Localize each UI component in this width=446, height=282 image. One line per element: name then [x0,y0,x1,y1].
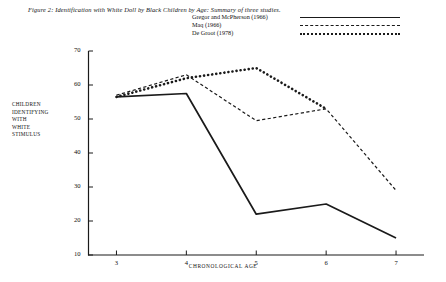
y-axis-title-line: IDENTIFYING [12,109,70,117]
figure-container: Figure 2: Identification with White Doll… [0,0,446,282]
series-line [116,75,396,191]
x-axis-title: CHRONOLOGICAL AGE [0,263,446,269]
x-tick-marks [116,251,396,256]
y-axis-title: CHILDRENIDENTIFYINGWITHWHITESTIMULUS [12,101,70,139]
y-axis-title-line: STIMULUS [12,131,70,139]
series-lines [116,68,396,238]
y-tick-label: 20 [57,216,81,223]
series-line [116,94,396,239]
y-tick-label: 10 [57,250,81,257]
y-axis-title-line: CHILDREN [12,101,70,109]
y-tick-label: 40 [57,148,81,155]
plot-area: 70605040302010 34567 CHILDRENIDENTIFYING… [0,0,446,282]
y-axis-title-line: WITH [12,116,70,124]
y-tick-marks [89,51,94,255]
y-axis-title-line: WHITE [12,124,70,132]
axis-lines [88,51,424,256]
y-tick-label: 70 [57,46,81,53]
y-tick-label: 60 [57,80,81,87]
series-line [116,68,326,109]
chart-svg [0,0,446,282]
y-tick-label: 30 [57,182,81,189]
